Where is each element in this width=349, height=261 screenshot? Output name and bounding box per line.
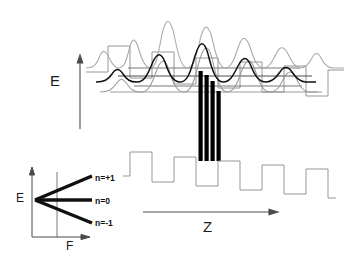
position-axis [143, 209, 278, 215]
transition-bar-4 [217, 91, 221, 161]
inset-field-arrowhead [81, 234, 90, 239]
inset-field-axis [32, 234, 90, 239]
energy-axis-label: E [50, 73, 61, 88]
inset-energy-axis-label: E [16, 192, 24, 204]
inset-energy-arrowhead [29, 167, 34, 175]
valence-band-potential [123, 152, 336, 198]
stark-fan-diagram [29, 167, 92, 240]
energy-axis-arrowhead [77, 55, 83, 63]
inset-energy-axis [29, 167, 34, 237]
transition-bar-3 [211, 81, 215, 161]
figure-canvas: E Z E F n=+1 n=0 n=-1 [0, 0, 349, 261]
fan-branch-n-minus-1 [35, 200, 92, 223]
inset-field-axis-label: F [66, 240, 73, 252]
transition-bar-2 [205, 75, 209, 161]
figure-svg [0, 0, 349, 261]
transition-bar-1 [199, 71, 203, 161]
fan-label-n-minus-1: n=-1 [95, 218, 113, 228]
wavefunction-n-plus-1 [86, 21, 344, 68]
fan-label-n-plus-1: n=+1 [95, 173, 115, 183]
optical-transition-bars [199, 71, 221, 161]
position-axis-arrowhead [269, 209, 278, 215]
fan-branch-n-plus-1 [35, 176, 92, 200]
energy-axis [77, 55, 83, 129]
fan-label-n-0: n=0 [95, 196, 110, 206]
position-axis-label: Z [203, 219, 213, 234]
